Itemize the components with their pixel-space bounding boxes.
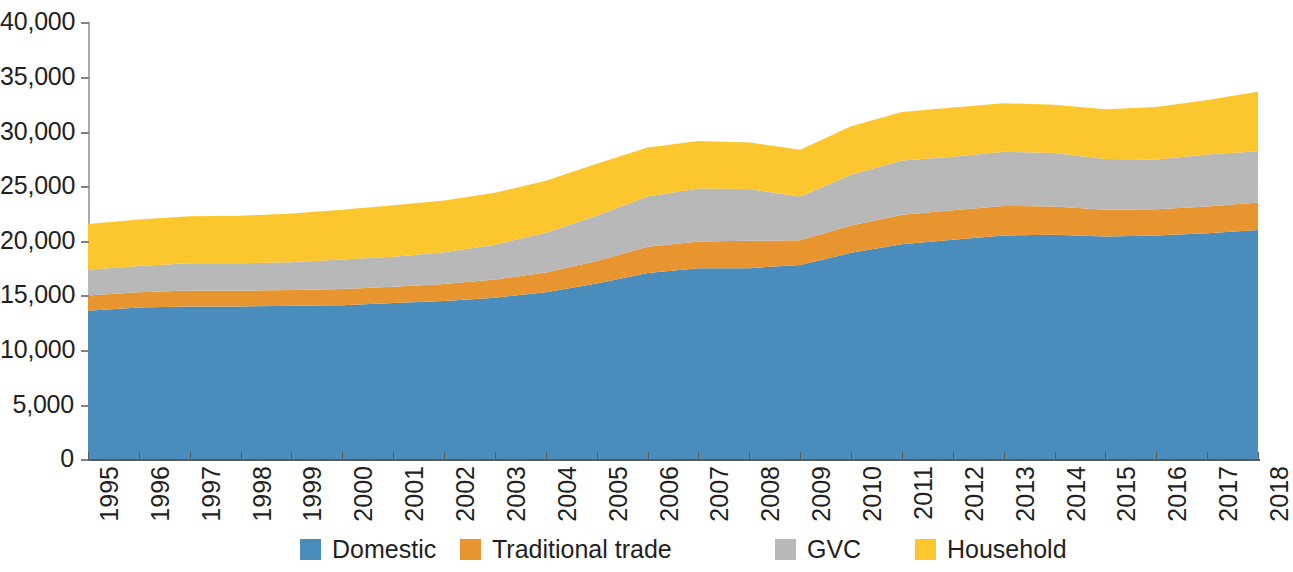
- legend-item-domestic[interactable]: Domestic: [300, 533, 436, 565]
- x-axis: 1995199619971998199920002001200220032004…: [0, 462, 1270, 528]
- x-tick-label: 1998: [250, 466, 275, 522]
- x-tick-mark: [139, 452, 140, 460]
- x-tick-label: 2006: [657, 466, 682, 522]
- x-tick-mark: [241, 452, 242, 460]
- x-tick-mark: [648, 452, 649, 460]
- y-tick-label: 35,000: [0, 64, 74, 89]
- chart-legend: DomesticTraditional tradeGVCHousehold: [0, 533, 1270, 569]
- x-tick-mark: [800, 452, 801, 460]
- x-tick-label: 2012: [962, 466, 987, 522]
- legend-item-gvc[interactable]: GVC: [775, 533, 861, 565]
- legend-label: Domestic: [332, 537, 436, 562]
- x-tick-mark: [190, 452, 191, 460]
- x-tick-mark: [1207, 452, 1208, 460]
- y-tick-label: 30,000: [0, 119, 74, 144]
- x-tick-mark: [393, 452, 394, 460]
- x-tick-label: 2005: [606, 466, 631, 522]
- x-tick-mark: [291, 452, 292, 460]
- x-tick-mark: [342, 452, 343, 460]
- plot-area: [88, 0, 1258, 460]
- x-tick-mark: [495, 452, 496, 460]
- x-tick-mark: [597, 452, 598, 460]
- x-tick-label: 2017: [1216, 466, 1241, 522]
- x-tick-mark: [444, 452, 445, 460]
- y-tick-mark: [81, 405, 89, 407]
- y-tick-mark: [81, 241, 89, 243]
- x-tick-mark: [1156, 452, 1157, 460]
- x-tick-label: 2013: [1013, 466, 1038, 522]
- x-tick-label: 1995: [97, 466, 122, 522]
- x-tick-mark: [1004, 452, 1005, 460]
- x-tick-label: 2010: [860, 466, 885, 522]
- x-tick-label: 2000: [351, 466, 376, 522]
- y-axis: 05,00010,00015,00020,00025,00030,00035,0…: [0, 0, 74, 470]
- x-tick-label: 2014: [1064, 466, 1089, 522]
- x-tick-label: 2004: [555, 466, 580, 522]
- x-tick-mark: [1258, 452, 1259, 460]
- x-tick-label: 2007: [707, 466, 732, 522]
- x-tick-label: 2008: [758, 466, 783, 522]
- x-tick-mark: [1055, 452, 1056, 460]
- x-tick-label: 2015: [1114, 466, 1139, 522]
- legend-swatch-icon: [460, 539, 481, 560]
- y-tick-mark: [81, 295, 89, 297]
- legend-item-household[interactable]: Household: [915, 533, 1067, 565]
- y-tick-mark: [81, 132, 89, 134]
- area-series-svg: [88, 0, 1258, 460]
- x-tick-label: 2016: [1165, 466, 1190, 522]
- x-axis-line: [88, 459, 1260, 461]
- y-tick-label: 5,000: [0, 392, 74, 417]
- x-tick-mark: [953, 452, 954, 460]
- legend-label: Household: [947, 537, 1067, 562]
- x-tick-label: 2002: [453, 466, 478, 522]
- x-tick-mark: [749, 452, 750, 460]
- legend-swatch-icon: [775, 539, 796, 560]
- x-tick-mark: [1105, 452, 1106, 460]
- x-tick-label: 2018: [1267, 466, 1292, 522]
- x-tick-mark: [851, 452, 852, 460]
- x-tick-label: 1996: [148, 466, 173, 522]
- y-tick-label: 15,000: [0, 282, 74, 307]
- y-tick-label: 25,000: [0, 173, 74, 198]
- y-tick-label: 10,000: [0, 337, 74, 362]
- y-tick-mark: [81, 186, 89, 188]
- x-tick-label: 1999: [300, 466, 325, 522]
- x-tick-label: 2009: [809, 466, 834, 522]
- x-tick-mark: [88, 452, 89, 460]
- x-tick-mark: [902, 452, 903, 460]
- x-tick-label: 2003: [504, 466, 529, 522]
- legend-item-traditional-trade[interactable]: Traditional trade: [460, 533, 672, 565]
- y-tick-label: 40,000: [0, 9, 74, 34]
- legend-swatch-icon: [915, 539, 936, 560]
- y-tick-mark: [81, 22, 89, 24]
- y-tick-mark: [81, 350, 89, 352]
- x-tick-label: 2001: [402, 466, 427, 522]
- x-tick-mark: [698, 452, 699, 460]
- legend-swatch-icon: [300, 539, 321, 560]
- x-tick-label: 2011: [911, 466, 936, 520]
- y-tick-label: 20,000: [0, 228, 74, 253]
- x-tick-mark: [546, 452, 547, 460]
- x-tick-label: 1997: [199, 466, 224, 522]
- legend-label: Traditional trade: [492, 537, 672, 562]
- legend-label: GVC: [807, 537, 861, 562]
- y-tick-mark: [81, 77, 89, 79]
